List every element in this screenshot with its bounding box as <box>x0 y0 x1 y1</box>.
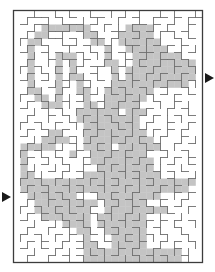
maze-puzzle <box>0 0 215 272</box>
start-arrow-icon <box>2 192 11 202</box>
maze-grid <box>0 0 215 272</box>
hidden-picture-shading <box>21 25 196 263</box>
finish-arrow-icon <box>205 73 214 83</box>
